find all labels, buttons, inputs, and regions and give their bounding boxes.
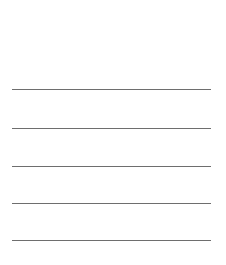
horizontal-rule-2: [12, 128, 211, 129]
horizontal-rule-5: [12, 240, 211, 241]
horizontal-rule-1: [12, 89, 211, 90]
rules-area: [0, 0, 226, 265]
ruled-sheet: [0, 0, 226, 265]
horizontal-rule-3: [12, 166, 211, 167]
horizontal-rule-4: [12, 203, 211, 204]
bottom-margin-area: [0, 242, 226, 265]
